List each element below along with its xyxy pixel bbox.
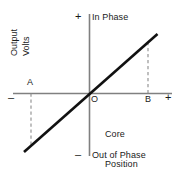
x-axis-label: Core Position: [105, 109, 138, 171]
y-axis-label-line2: Volts: [22, 36, 31, 56]
x-axis-negative-sign: –: [8, 92, 14, 103]
in-phase-label: In Phase: [92, 12, 128, 22]
lvdt-output-characteristic-diagram: In Phase Out of Phase Core Position Outp…: [0, 0, 183, 171]
origin-label: O: [91, 95, 98, 104]
point-b-label: B: [145, 95, 151, 104]
x-axis-label-line1: Core: [105, 129, 138, 139]
x-axis-label-line2: Position: [105, 159, 138, 169]
y-axis-label-line1: Output: [10, 29, 19, 56]
y-axis-negative-sign: –: [75, 149, 81, 160]
point-a-label: A: [27, 78, 33, 87]
x-axis-positive-sign: +: [165, 92, 171, 103]
y-axis-positive-sign: +: [75, 11, 81, 22]
